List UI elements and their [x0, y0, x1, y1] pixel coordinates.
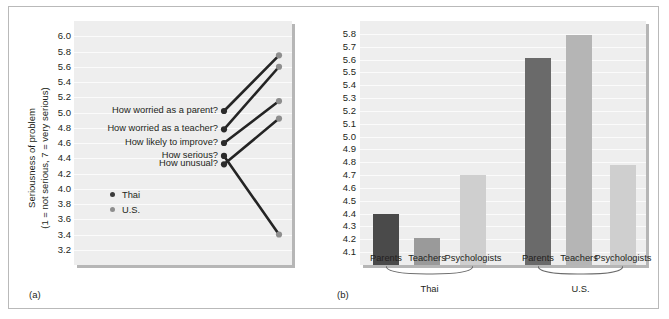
gridline: [360, 47, 646, 48]
thai-point: [221, 161, 227, 167]
legend-dot-icon: [110, 207, 115, 212]
panel-a-ytick: 5.4: [58, 77, 71, 87]
gridline: [360, 239, 646, 240]
connector-line: [224, 101, 279, 143]
panel-a-ytick: 5.8: [58, 47, 71, 57]
panel-a-ytick: 4.8: [58, 123, 71, 133]
legend-label: Thai: [122, 190, 140, 200]
figure-frame: Seriousness of problem (1 = not serious,…: [8, 6, 659, 309]
panel-a-ytick: 3.4: [58, 230, 71, 240]
group-label-thai: Thai: [420, 284, 438, 294]
axis-title-line-1: Seriousness of problem: [25, 43, 38, 273]
gridline: [360, 201, 646, 202]
panel-a-ytick: 3.2: [58, 245, 71, 255]
thai-point: [221, 108, 227, 114]
panel-b-plot-area: [360, 21, 646, 265]
gridline: [360, 188, 646, 189]
bar-us-teachers: [566, 35, 592, 265]
panel-b-ytick: 4.7: [343, 170, 356, 180]
gridline: [360, 111, 646, 112]
panel-b-ytick: 4.3: [343, 222, 356, 232]
group-brace: [386, 265, 473, 283]
bar-category-label: Parents: [370, 253, 402, 263]
panel-b-ytick: 5.2: [343, 106, 356, 116]
thai-point: [221, 126, 227, 132]
panel-b-ytick: 4.4: [343, 209, 356, 219]
bar-category-label: Psychologists: [445, 253, 502, 263]
us-point: [276, 231, 282, 237]
panel-a-ytick: 6.0: [58, 32, 71, 42]
gridline: [360, 60, 646, 61]
panel-b-ytick: 5.8: [343, 29, 356, 39]
thai-point: [221, 153, 227, 159]
panel-b-ytick: 5.0: [343, 132, 356, 142]
legend-item-thai: Thai: [110, 187, 140, 202]
panel-b-ytick: 5.4: [343, 80, 356, 90]
panel-a-ytick: 4.2: [58, 169, 71, 179]
gridline: [360, 214, 646, 215]
connector-line: [224, 156, 279, 235]
connector-line: [224, 119, 279, 165]
panel-a-ytick: 4.0: [58, 184, 71, 194]
legend-item-us: U.S.: [110, 202, 140, 217]
gridline: [360, 34, 646, 35]
bar-category-label: Psychologists: [595, 253, 652, 263]
group-brace: [538, 265, 623, 283]
panel-a: Seriousness of problem (1 = not serious,…: [9, 7, 331, 308]
panel-b-ytick: 4.1: [343, 247, 356, 257]
panel-a-ytick: 3.8: [58, 199, 71, 209]
panel-a-lines: [74, 21, 292, 265]
panel-b-ytick: 4.9: [343, 145, 356, 155]
panel-a-ytick: 5.2: [58, 93, 71, 103]
panel-b-ytick: 4.8: [343, 158, 356, 168]
panel-a-ytick-labels: 6.05.85.65.45.25.04.84.64.44.24.03.83.63…: [47, 21, 71, 265]
panel-b-ytick: 4.5: [343, 196, 356, 206]
us-point: [276, 116, 282, 122]
connector-line: [224, 67, 279, 130]
gridline: [360, 226, 646, 227]
us-point: [276, 52, 282, 58]
panel-b-ytick-labels: 5.85.75.65.55.45.35.25.15.04.94.84.74.64…: [333, 21, 356, 265]
gridline: [360, 175, 646, 176]
us-point: [276, 64, 282, 70]
panel-b-ytick: 5.7: [343, 42, 356, 52]
bar-thai-psychologists: [460, 175, 486, 265]
panel-b-tag: (b): [337, 289, 349, 300]
bar-us-psychologists: [610, 165, 636, 265]
panel-b-ytick: 4.2: [343, 235, 356, 245]
panel-b-ytick: 5.5: [343, 68, 356, 78]
bar-category-label: Teachers: [560, 253, 598, 263]
panel-a-ytick: 5.0: [58, 108, 71, 118]
panel-a-ytick: 3.6: [58, 215, 71, 225]
gridline: [360, 149, 646, 150]
gridline: [360, 98, 646, 99]
gridline: [360, 162, 646, 163]
thai-point: [221, 140, 227, 146]
us-point: [276, 98, 282, 104]
panel-b-ytick: 5.6: [343, 55, 356, 65]
gridline: [360, 137, 646, 138]
bar-category-label: Teachers: [408, 253, 446, 263]
bar-us-parents: [525, 58, 551, 265]
connector-line: [224, 55, 279, 111]
panel-a-plot-area: How worried as a parent?How worried as a…: [74, 21, 292, 265]
group-label-us: U.S.: [571, 284, 589, 294]
panel-a-ytick: 5.6: [58, 62, 71, 72]
panel-b-ytick: 5.1: [343, 119, 356, 129]
gridline: [360, 72, 646, 73]
brace-icon: [538, 266, 623, 279]
panel-b-ytick: 4.6: [343, 183, 356, 193]
panel-b: 5.85.75.65.55.45.35.25.15.04.94.84.74.64…: [331, 7, 659, 308]
bar-category-label: Parents: [522, 253, 554, 263]
panel-a-tag: (a): [29, 289, 41, 300]
panel-a-ytick: 4.6: [58, 138, 71, 148]
legend-label: U.S.: [122, 205, 140, 215]
legend-dot-icon: [110, 192, 115, 197]
gridline: [360, 124, 646, 125]
panel-a-ytick: 4.4: [58, 154, 71, 164]
panel-a-legend: ThaiU.S.: [110, 187, 140, 217]
gridline: [360, 85, 646, 86]
panel-b-ytick: 5.3: [343, 93, 356, 103]
brace-icon: [386, 266, 473, 279]
